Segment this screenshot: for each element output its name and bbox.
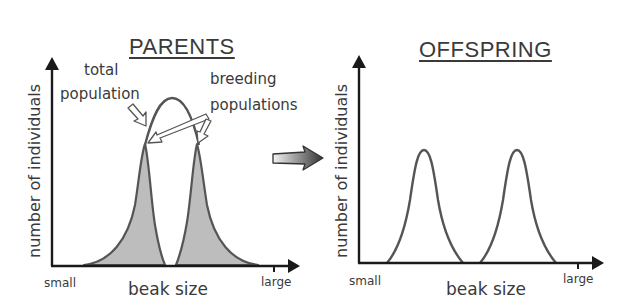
breeding-populations-label-line1: breeding bbox=[210, 69, 277, 89]
total-population-label-line2: population bbox=[60, 84, 140, 104]
parents-y-axis-label: number of individuals bbox=[25, 84, 44, 258]
offspring-x-axis-arrowhead-icon bbox=[592, 256, 604, 270]
parents-x-axis-label: beak size bbox=[128, 279, 208, 299]
offspring-curve-left bbox=[387, 150, 463, 263]
breeding-population-right-area bbox=[176, 144, 258, 265]
parents-y-axis-arrowhead-icon bbox=[45, 57, 59, 70]
parents-x-axis-arrowhead-icon bbox=[288, 259, 300, 273]
offspring-y-axis-label: number of individuals bbox=[332, 84, 351, 258]
total-population-label-line1: total bbox=[84, 60, 118, 80]
parents-x-max-label: large bbox=[261, 275, 291, 289]
transition-arrow-icon bbox=[273, 146, 323, 170]
offspring-y-axis-arrowhead-icon bbox=[352, 55, 366, 68]
offspring-title: OFFSPRING bbox=[419, 37, 552, 63]
parents-title: PARENTS bbox=[129, 34, 235, 60]
breeding-population-left-area bbox=[84, 144, 165, 265]
offspring-x-min-label: small bbox=[349, 274, 381, 288]
parents-x-min-label: small bbox=[44, 276, 76, 290]
breeding-populations-label-line2: populations bbox=[210, 95, 298, 115]
total-population-pointer-icon bbox=[128, 104, 146, 126]
offspring-x-axis-label: beak size bbox=[446, 279, 526, 299]
offspring-chart-graphics bbox=[352, 55, 604, 270]
offspring-x-max-label: large bbox=[563, 272, 593, 286]
offspring-curve-right bbox=[480, 150, 556, 263]
